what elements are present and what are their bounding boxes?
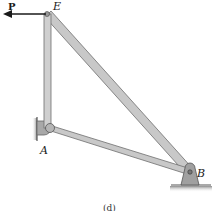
joint-label-e: E [52,0,61,13]
member-ea [44,14,51,128]
figure-caption: (d) [103,203,116,211]
pin-a [46,124,55,133]
joint-label-b: B [196,167,205,180]
pin-b [188,170,192,174]
force-label-p: P [8,1,16,12]
joint-label-a: A [39,144,48,157]
truss-diagram: P E A B (d) [0,0,220,211]
